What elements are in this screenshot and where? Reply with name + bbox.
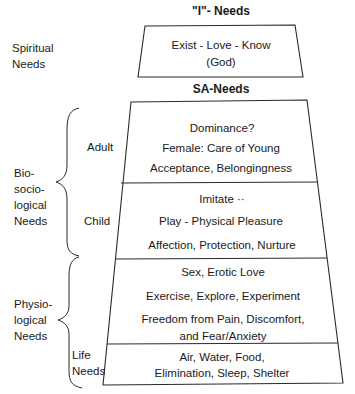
divider-physio-life [107, 343, 338, 344]
label-spiritual-needs: Spiritual Needs [12, 40, 54, 72]
physio-line-2: Exercise, Explore, Experiment [146, 289, 300, 303]
label-life-needs: Life Needs [72, 347, 105, 379]
spiritual-line-1: Exist - Love - Know [171, 38, 270, 52]
label-physiological-needs: Physio- logical Needs [14, 296, 52, 344]
adult-line-1: Dominance? [190, 121, 255, 135]
physio-line-4: and Fear/Anxiety [180, 329, 267, 343]
life-line-2: Elimination, Sleep, Shelter [155, 366, 290, 380]
label-child: Child [84, 214, 110, 228]
physio-line-3: Freedom from Pain, Discomfort, [142, 312, 305, 326]
heading-sa-needs: SA-Needs [193, 82, 250, 96]
heading-i-needs: "I"- Needs [192, 4, 250, 18]
child-line-2: Play - Physical Pleasure [159, 214, 283, 228]
divider-child-physio [115, 258, 327, 259]
spiritual-line-2: (God) [206, 55, 235, 69]
physio-line-1: Sex, Erotic Love [181, 265, 265, 279]
label-biosociological-needs: Bio- socio- logical Needs [14, 165, 47, 229]
label-adult: Adult [87, 140, 113, 154]
brace-biosociological-icon [56, 108, 79, 256]
child-line-3: Affection, Protection, Nurture [148, 238, 295, 252]
divider-adult-child [121, 182, 318, 183]
adult-line-3: Acceptance, Belongingness [150, 161, 292, 175]
life-line-1: Air, Water, Food, [179, 350, 264, 364]
adult-line-2: Female: Care of Young [162, 141, 280, 155]
child-line-1: Imitate ·· [199, 192, 244, 206]
